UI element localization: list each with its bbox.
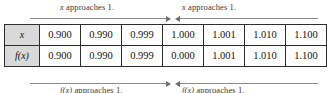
cell-fx-5: 1.010 — [245, 46, 286, 67]
approach-label-bottom-right: f(x) approaches 1. — [182, 85, 244, 93]
cell-fx-0: 0.900 — [40, 46, 81, 67]
limit-value-table: x 0.900 0.990 0.999 1.000 1.001 1.010 1.… — [4, 24, 327, 67]
arrow-line — [176, 83, 318, 84]
cell-x-5: 1.010 — [245, 25, 286, 46]
approach-label-top-right: x approaches 1. — [182, 2, 236, 12]
cell-fx-2: 0.999 — [122, 46, 163, 67]
limit-table-figure: x approaches 1. x approaches 1. x 0.900 … — [0, 0, 328, 93]
arrow-head-left-icon — [175, 16, 180, 22]
row-header-fx: f(x) — [5, 46, 40, 67]
arrow-line — [176, 18, 318, 19]
cell-x-6: 1.100 — [286, 25, 327, 46]
approach-label-variable: f(x) — [60, 85, 72, 93]
cell-x-3: 1.000 — [163, 25, 204, 46]
cell-fx-1: 0.990 — [81, 46, 122, 67]
approach-label-text: approaches 1. — [194, 85, 244, 93]
arrow-line — [30, 18, 170, 19]
approach-label-text: approaches 1. — [186, 2, 236, 12]
arrow-line — [30, 83, 170, 84]
approach-label-text: approaches 1. — [72, 85, 122, 93]
arrow-head-right-icon — [166, 81, 171, 87]
cell-x-1: 0.990 — [81, 25, 122, 46]
cell-x-2: 0.999 — [122, 25, 163, 46]
cell-fx-6: 1.100 — [286, 46, 327, 67]
approach-arrow-top-right — [176, 15, 318, 22]
cell-x-4: 1.001 — [204, 25, 245, 46]
table-row: f(x) 0.900 0.990 0.999 0.000 1.001 1.010… — [5, 46, 327, 67]
approach-label-top-left: x approaches 1. — [60, 2, 114, 12]
arrow-head-right-icon — [166, 16, 171, 22]
cell-x-0: 0.900 — [40, 25, 81, 46]
table-row: x 0.900 0.990 0.999 1.000 1.001 1.010 1.… — [5, 25, 327, 46]
approach-label-text: approaches 1. — [64, 2, 114, 12]
approach-label-variable: f(x) — [182, 85, 194, 93]
approach-arrow-top-left — [30, 15, 170, 22]
arrow-head-left-icon — [175, 81, 180, 87]
cell-fx-3: 0.000 — [163, 46, 204, 67]
approach-label-bottom-left: f(x) approaches 1. — [60, 85, 122, 93]
row-header-x: x — [5, 25, 40, 46]
cell-fx-4: 1.001 — [204, 46, 245, 67]
